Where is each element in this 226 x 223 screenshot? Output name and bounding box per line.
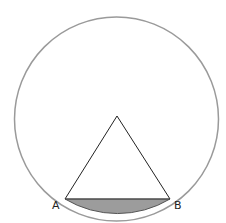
label-b: B xyxy=(174,199,182,212)
circle-segment-diagram: A B xyxy=(0,0,226,223)
shaded-segment xyxy=(65,199,170,214)
circle xyxy=(15,17,219,221)
label-a: A xyxy=(52,199,60,212)
triangle xyxy=(65,116,170,199)
